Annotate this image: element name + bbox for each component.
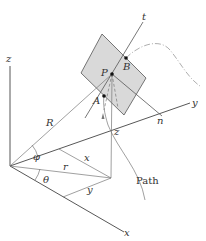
x-coordinate-label: x [84, 152, 90, 163]
y-axis-label: y [191, 97, 198, 108]
point-p [110, 72, 114, 76]
point-a-label: A [92, 95, 100, 106]
r-cylindrical-line [10, 166, 111, 178]
angle-phi-label: φ [33, 151, 40, 162]
path-label: Path [136, 175, 159, 186]
tangent-label: t [142, 11, 147, 22]
z-axis-label: z [5, 53, 12, 64]
z-coordinate-label: z [113, 126, 120, 137]
angle-theta-label: θ [43, 174, 49, 185]
coordinate-diagram: z y x t n P A B R r x y z φ θ Path [0, 0, 206, 241]
point-b [124, 56, 128, 60]
r-spherical-line [10, 74, 112, 166]
r-spherical-label: R [45, 117, 54, 128]
point-b-label: B [122, 61, 130, 72]
x-axis-label: x [124, 227, 130, 238]
path-arrow-icon [102, 113, 105, 119]
y-coordinate-label: y [86, 184, 93, 195]
point-a [102, 94, 106, 98]
r-cylindrical-label: r [63, 161, 69, 172]
angle-theta-arc [35, 169, 40, 180]
point-p-label: P [100, 67, 108, 78]
normal-label: n [157, 115, 163, 126]
